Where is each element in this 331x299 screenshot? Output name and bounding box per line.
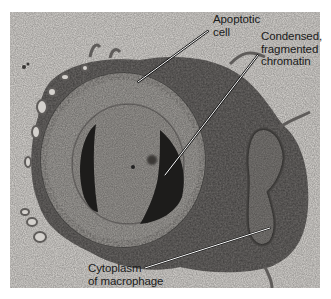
label-line: Cytoplasm [88, 262, 163, 275]
label-line: Apoptotic [213, 13, 260, 26]
label-line: cell [213, 26, 260, 39]
label-line: Condensed, [261, 30, 322, 43]
label-chromatin: Condensed, fragmented chromatin [261, 30, 322, 68]
label-macrophage-cytoplasm: Cytoplasm of macrophage [88, 262, 163, 287]
label-line: chromatin [261, 55, 322, 68]
label-line: fragmented [261, 43, 322, 56]
label-apoptotic-cell: Apoptotic cell [213, 13, 260, 38]
label-line: of macrophage [88, 275, 163, 288]
